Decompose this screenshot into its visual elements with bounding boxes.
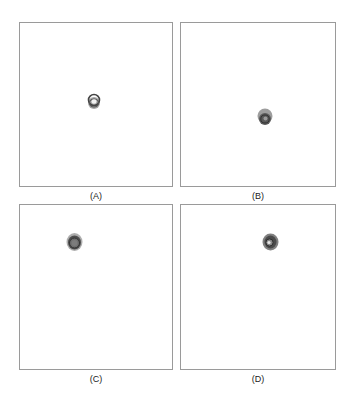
panel-d-label: (D) <box>228 374 288 384</box>
panel-b-blob <box>257 108 273 126</box>
filled-blob-icon <box>66 233 83 252</box>
ring-blob-icon <box>87 93 101 110</box>
panel-d-frame <box>180 204 336 370</box>
panel-a-label: (A) <box>66 191 126 201</box>
panel-b-label: (B) <box>228 191 288 201</box>
panel-c-blob <box>66 233 83 252</box>
panel-c-frame <box>19 204 173 370</box>
panel-b-frame <box>180 22 336 187</box>
filled-blob-icon <box>262 233 279 251</box>
panel-d-blob <box>262 233 279 251</box>
filled-blob-icon <box>257 108 273 126</box>
panel-a-blob <box>87 93 101 110</box>
panel-c-label: (C) <box>66 374 126 384</box>
